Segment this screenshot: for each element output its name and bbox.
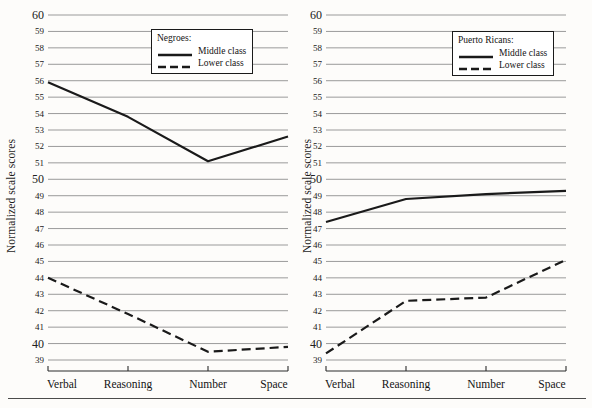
panels-container: Normalized scale scores 3940414243444546… — [0, 0, 592, 392]
y-axis-tick-label: 57 — [35, 60, 44, 69]
y-axis-tick-label: 50 — [32, 173, 44, 185]
y-axis-tick-label: 58 — [313, 43, 322, 52]
y-axis-tick-label: 52 — [313, 142, 322, 151]
y-axis-tick-label: 42 — [35, 306, 44, 315]
x-axis-tick-label: Verbal — [47, 379, 77, 391]
figure-root: Normalized scale scores 3940414243444546… — [0, 0, 592, 408]
x-axis-tick-label: Verbal — [325, 379, 355, 391]
y-axis-tick-label: 56 — [313, 76, 322, 85]
y-axis-tick-label: 39 — [35, 356, 44, 365]
series-line-lower-class — [326, 260, 566, 354]
y-axis-tick-label: 46 — [35, 241, 44, 250]
legend-entry-lower-class: Lower class — [458, 59, 547, 71]
chart-panel-right: Normalized scale scores 3940414243444546… — [296, 0, 592, 392]
y-axis-tick-label: 48 — [35, 208, 44, 217]
series-line-lower-class — [48, 278, 288, 352]
legend-left: Negroes: Middle class Lower — [151, 29, 253, 74]
legend-label-middle-class: Middle class — [499, 49, 547, 59]
legend-swatch-dashed — [157, 58, 193, 68]
y-axis-tick-label: 54 — [35, 109, 44, 118]
y-axis-tick-label: 48 — [313, 208, 322, 217]
y-axis-tick-label: 59 — [313, 27, 322, 36]
legend-label-lower-class: Lower class — [198, 59, 244, 69]
y-axis-tick-label: 53 — [35, 126, 44, 135]
y-axis-title-left: Normalized scale scores — [0, 0, 22, 392]
y-axis-tick-label: 49 — [35, 191, 44, 200]
x-axis-tick-label: Number — [189, 379, 227, 391]
y-axis-tick-label: 59 — [35, 27, 44, 36]
y-axis-tick-label: 40 — [32, 338, 44, 350]
y-axis-tick-label: 43 — [313, 290, 322, 299]
y-axis-tick-label: 45 — [313, 257, 322, 266]
x-axis-tick-label: Reasoning — [104, 379, 153, 391]
legend-entry-lower-class: Lower class — [157, 57, 246, 69]
legend-swatch-solid — [157, 46, 193, 56]
y-axis-tick-label: 40 — [310, 338, 322, 350]
y-axis-tick-label: 49 — [313, 191, 322, 200]
legend-entry-middle-class: Middle class — [458, 47, 547, 59]
x-axis-tick-label: Space — [538, 379, 565, 391]
legend-right: Puerto Ricans: Middle class — [452, 31, 554, 76]
y-axis-tick-label: 58 — [35, 43, 44, 52]
y-axis-tick-label: 44 — [35, 273, 44, 282]
legend-swatch-dashed — [458, 60, 494, 70]
x-axis-tick-label: Reasoning — [382, 379, 431, 391]
chart-panel-left: Normalized scale scores 3940414243444546… — [0, 0, 296, 392]
y-axis-tick-label: 54 — [313, 109, 322, 118]
y-axis-tick-label: 51 — [313, 158, 322, 167]
series-line-middle-class — [48, 82, 288, 161]
y-axis-tick-label: 57 — [313, 60, 322, 69]
y-axis-tick-label: 56 — [35, 76, 44, 85]
y-axis-tick-label: 41 — [313, 323, 322, 332]
legend-entry-middle-class: Middle class — [157, 45, 246, 57]
y-axis-tick-label: 46 — [313, 241, 322, 250]
y-axis-tick-label: 41 — [35, 323, 44, 332]
y-axis-tick-label: 44 — [313, 273, 322, 282]
y-axis-tick-label: 55 — [35, 93, 44, 102]
y-axis-tick-label: 53 — [313, 126, 322, 135]
legend-label-lower-class: Lower class — [499, 61, 545, 71]
y-axis-tick-label: 52 — [35, 142, 44, 151]
y-axis-tick-label: 39 — [313, 356, 322, 365]
legend-label-middle-class: Middle class — [198, 47, 246, 57]
x-axis-tick-label: Space — [260, 379, 287, 391]
y-axis-tick-label: 51 — [35, 158, 44, 167]
legend-swatch-solid — [458, 48, 494, 58]
y-axis-tick-label: 45 — [35, 257, 44, 266]
x-axis-tick-label: Number — [467, 379, 505, 391]
y-axis-tick-label: 60 — [310, 9, 322, 21]
footer-rule — [8, 398, 586, 399]
y-axis-tick-label: 60 — [32, 9, 44, 21]
y-axis-tick-label: 47 — [35, 224, 44, 233]
y-axis-tick-label: 55 — [313, 93, 322, 102]
y-axis-tick-label: 43 — [35, 290, 44, 299]
y-axis-tick-label: 42 — [313, 306, 322, 315]
y-axis-tick-label: 47 — [313, 224, 322, 233]
y-axis-tick-label: 50 — [310, 173, 322, 185]
legend-title-left: Negroes: — [157, 33, 246, 43]
legend-title-right: Puerto Ricans: — [458, 35, 547, 45]
